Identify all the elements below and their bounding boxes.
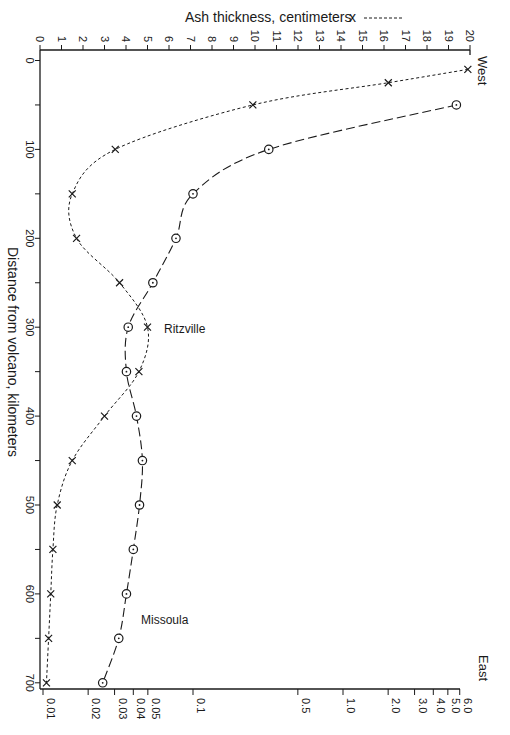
top-tick-label: 20 (464, 30, 476, 42)
bottom-tick-label: 5.0 (450, 698, 462, 713)
bottom-tick-label: 0.5 (300, 698, 312, 713)
left-tick-label: 600 (24, 585, 36, 603)
ash-thickness-markers (43, 66, 471, 686)
x-marker (112, 146, 119, 153)
left-tick-label: 700 (24, 674, 36, 692)
left-tick-label: 400 (24, 407, 36, 425)
left-tick-label: 0 (24, 57, 36, 63)
circle-marker-dot (175, 237, 177, 239)
bottom-tick-label: 0.01 (45, 698, 57, 719)
missoula-label: Missoula (141, 613, 189, 627)
ash-thickness-line (46, 69, 467, 682)
legend-marker: x (349, 9, 356, 25)
top-tick-label: 8 (206, 36, 218, 42)
left-tick-label: 300 (24, 318, 36, 336)
circle-marker-dot (142, 460, 144, 462)
left-axis: 0100200300400500600700 (24, 50, 40, 692)
bottom-axis: 0.010.020.030.040.050.10.51.02.03.04.05.… (40, 689, 474, 719)
top-tick-label: 18 (421, 30, 433, 42)
top-tick-label: 4 (120, 36, 132, 42)
top-tick-label: 19 (443, 30, 455, 42)
bottom-tick-label: 2.0 (390, 698, 402, 713)
west-label: West (475, 56, 490, 86)
bottom-tick-label: 1.0 (345, 698, 357, 713)
x-marker (47, 590, 54, 597)
top-tick-label: 7 (185, 36, 197, 42)
top-tick-label: 2 (77, 36, 89, 42)
top-axis: 01234567891011121314151617181920 (34, 30, 476, 55)
circle-marker-dot (126, 371, 128, 373)
top-tick-label: 6 (163, 36, 175, 42)
bottom-tick-label: 0.05 (150, 698, 162, 719)
top-tick-label: 9 (228, 36, 240, 42)
top-tick-label: 0 (34, 36, 46, 42)
circle-marker-dot (152, 282, 154, 284)
bottom-tick-label: 0.03 (117, 698, 129, 719)
x-marker (135, 368, 142, 375)
circle-marker-dot (132, 549, 134, 551)
circle-marker-dot (102, 682, 104, 684)
top-tick-label: 13 (314, 30, 326, 42)
top-tick-label: 15 (357, 30, 369, 42)
bottom-tick-label: 4.0 (435, 698, 447, 713)
bottom-tick-label: 6.0 (462, 698, 474, 713)
left-tick-label: 200 (24, 229, 36, 247)
top-tick-label: 16 (378, 30, 390, 42)
top-tick-label: 1 (56, 36, 68, 42)
top-tick-label: 12 (292, 30, 304, 42)
ritzville-label: Ritzville (164, 322, 206, 336)
left-tick-label: 100 (24, 140, 36, 158)
circle-marker-dot (126, 593, 128, 595)
x-marker (116, 279, 123, 286)
circle-marker-dot (139, 504, 141, 506)
x-marker (101, 413, 108, 420)
x-marker (49, 546, 56, 553)
east-label: East (476, 655, 491, 681)
bottom-tick-label: 3.0 (417, 698, 429, 713)
x-marker (249, 101, 256, 108)
bottom-tick-label: 0.02 (90, 698, 102, 719)
left-tick-label: 500 (24, 496, 36, 514)
x-marker (45, 635, 52, 642)
ash-thickness-chart: Ash thickness, centimeters x 01234567891… (0, 0, 510, 735)
top-tick-label: 14 (335, 30, 347, 42)
circle-series-markers (98, 101, 460, 687)
top-tick-label: 5 (142, 36, 154, 42)
circle-marker-dot (136, 415, 138, 417)
circle-marker-dot (118, 637, 120, 639)
x-marker (69, 190, 76, 197)
top-tick-label: 10 (249, 30, 261, 42)
circle-marker-dot (268, 149, 270, 151)
top-tick-label: 3 (99, 36, 111, 42)
bottom-tick-label: 0.04 (135, 698, 147, 719)
circle-marker-dot (192, 193, 194, 195)
circle-marker-dot (455, 104, 457, 106)
x-marker (73, 235, 80, 242)
circle-marker-dot (127, 326, 129, 328)
x-marker (69, 457, 76, 464)
legend-label: Ash thickness, centimeters (185, 9, 352, 25)
bottom-tick-label: 0.1 (195, 698, 207, 713)
top-tick-label: 17 (400, 30, 412, 42)
y-axis-label: Distance from volcano, kilometers (5, 247, 21, 457)
x-marker (43, 679, 50, 686)
circle-series-line (103, 105, 457, 683)
top-tick-label: 11 (271, 31, 283, 42)
